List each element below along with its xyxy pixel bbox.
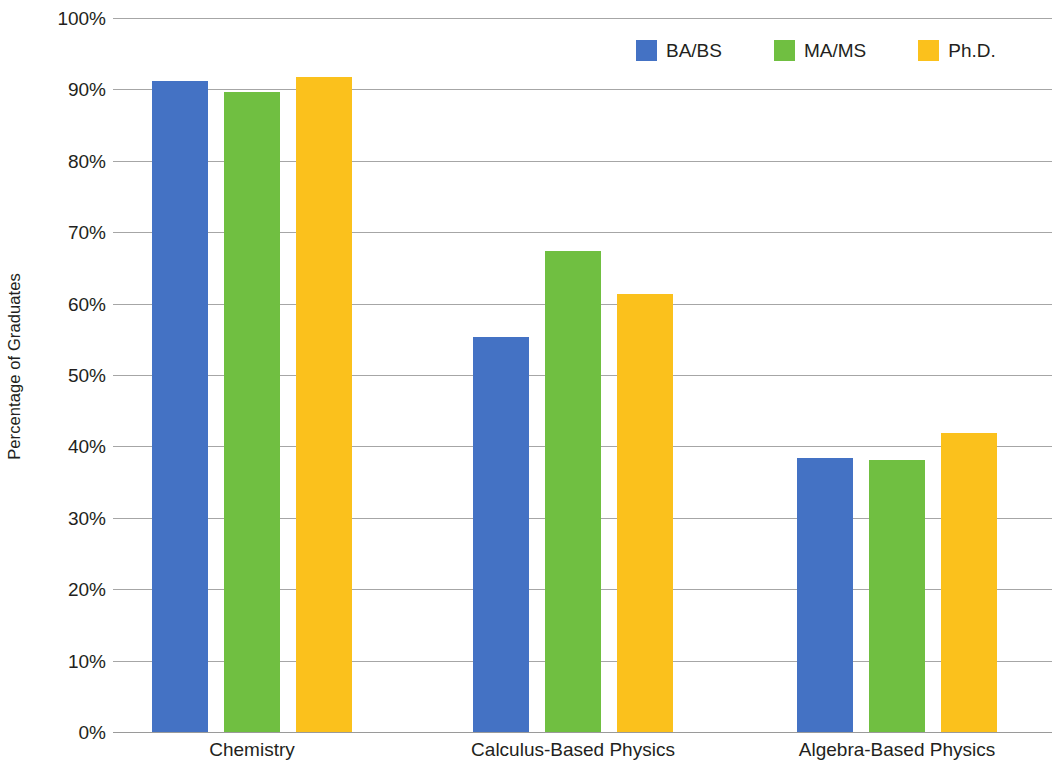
- y-axis-tick-label: 60%: [28, 294, 106, 313]
- legend-item[interactable]: BA/BS: [636, 40, 722, 61]
- gridline: [113, 732, 1052, 733]
- bar: [869, 460, 925, 732]
- y-axis-title: Percentage of Graduates: [0, 0, 28, 732]
- legend-label: MA/MS: [804, 41, 866, 60]
- legend-swatch-icon: [918, 40, 939, 61]
- legend-label: Ph.D.: [948, 41, 996, 60]
- legend-item[interactable]: MA/MS: [774, 40, 866, 61]
- y-axis-tick-label: 70%: [28, 223, 106, 242]
- bar: [224, 92, 280, 732]
- x-axis-tick-label: Algebra-Based Physics: [697, 740, 1052, 759]
- legend-label: BA/BS: [666, 41, 722, 60]
- bar: [152, 81, 208, 732]
- y-axis-title-text: Percentage of Graduates: [5, 273, 24, 460]
- bar: [545, 251, 601, 732]
- bar-chart: Percentage of Graduates 0%10%20%30%40%50…: [0, 0, 1052, 768]
- y-axis-tick-label: 50%: [28, 366, 106, 385]
- chart-legend: BA/BSMA/MSPh.D.: [636, 40, 996, 61]
- bar: [296, 77, 352, 732]
- y-axis-tick-label: 40%: [28, 437, 106, 456]
- y-axis-tick-label: 20%: [28, 580, 106, 599]
- legend-swatch-icon: [774, 40, 795, 61]
- plot-area: [113, 18, 1052, 732]
- y-axis-tick-label: 30%: [28, 508, 106, 527]
- bar: [797, 458, 853, 732]
- y-axis-tick-label: 0%: [28, 723, 106, 742]
- y-axis-tick-label: 90%: [28, 80, 106, 99]
- legend-item[interactable]: Ph.D.: [918, 40, 996, 61]
- y-axis-tick-label: 80%: [28, 151, 106, 170]
- bar: [473, 337, 529, 732]
- bar: [617, 294, 673, 732]
- y-axis-tick-label: 100%: [28, 9, 106, 28]
- y-axis-tick-label: 10%: [28, 651, 106, 670]
- legend-swatch-icon: [636, 40, 657, 61]
- bar: [941, 433, 997, 732]
